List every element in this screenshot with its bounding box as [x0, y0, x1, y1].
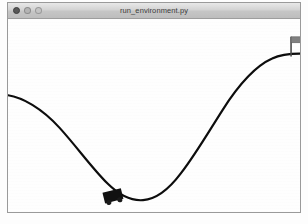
- minimize-button[interactable]: [24, 7, 31, 14]
- window-title: run_environment.py: [8, 3, 300, 18]
- environment-render-canvas: [8, 19, 300, 212]
- close-button[interactable]: [13, 7, 20, 14]
- maximize-button[interactable]: [35, 7, 42, 14]
- mountain-car-scene: [8, 19, 300, 212]
- terrain-curve: [8, 54, 300, 201]
- mountain-car: [102, 188, 124, 206]
- app-window: run_environment.py: [7, 2, 301, 213]
- flag-banner-icon: [291, 37, 300, 43]
- window-controls: [13, 7, 42, 14]
- title-bar[interactable]: run_environment.py: [8, 3, 300, 19]
